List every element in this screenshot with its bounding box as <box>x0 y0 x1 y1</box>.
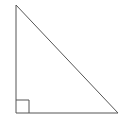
triangle <box>16 5 118 113</box>
right-triangle-diagram <box>0 0 124 123</box>
right-angle-marker <box>16 100 29 113</box>
